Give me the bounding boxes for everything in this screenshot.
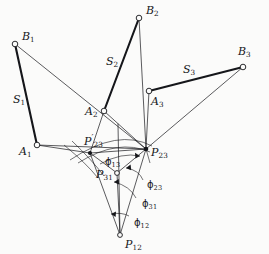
- ray-A3-P23: [146, 91, 149, 149]
- angle-label-phi23: ϕ23: [147, 180, 162, 191]
- marker-P12: [118, 233, 123, 238]
- marker-B3: [240, 64, 246, 70]
- marker-A2: [101, 108, 107, 114]
- segment-label-S2: S2: [106, 56, 118, 68]
- point-label-P23-prime: P′23: [84, 134, 103, 148]
- angle-label-phi31: ϕ31: [142, 199, 157, 210]
- marker-A1: [34, 142, 40, 148]
- ray-group: [15, 18, 243, 235]
- arc-phi23: [126, 168, 143, 180]
- point-label-B1: B1: [22, 31, 35, 43]
- point-label-A3: A3: [151, 96, 164, 108]
- angle-label-phi12: ϕ12: [134, 218, 149, 229]
- point-label-P23: P23: [151, 147, 168, 159]
- marker-P23-prime: [88, 151, 92, 155]
- point-label-P12: P12: [125, 239, 142, 251]
- marker-P31: [115, 171, 120, 176]
- arrowhead-phi23: [126, 165, 131, 171]
- marker-B1: [12, 41, 18, 47]
- marker-B2: [136, 15, 142, 21]
- segment-label-S1: S1: [13, 94, 25, 106]
- ray-B2-P23: [139, 18, 146, 149]
- ray-A2-P23: [104, 111, 146, 149]
- marker-P23: [144, 147, 149, 152]
- segment-label-S3: S3: [183, 64, 195, 76]
- point-label-B3: B3: [238, 46, 251, 58]
- marker-A3: [146, 88, 152, 94]
- point-label-A2: A2: [85, 106, 98, 118]
- figure-root: B1 B2 B3 A1 A2 A3 P′23 P23 P31 P12 S1 S2…: [0, 0, 269, 254]
- point-label-A1: A1: [19, 146, 32, 158]
- point-label-P31: P31: [96, 169, 113, 181]
- link-group: [15, 18, 243, 145]
- angle-label-phi13: ϕ13: [105, 157, 120, 168]
- point-label-B2: B2: [146, 5, 159, 17]
- diagram-canvas: [0, 0, 269, 254]
- arrowhead-phi13: [135, 153, 140, 159]
- arrowhead-phi31: [114, 179, 119, 185]
